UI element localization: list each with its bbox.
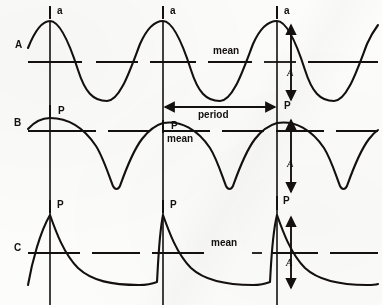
waveform-broadpeak-panel-b <box>28 118 378 189</box>
waveform-figure: A B C a a a P P P P P P mean mean mean p… <box>0 0 382 305</box>
waveform-sine-panel-a <box>28 21 378 101</box>
waveform-canvas <box>0 0 382 305</box>
waveform-sawtooth-panel-c <box>28 215 378 285</box>
